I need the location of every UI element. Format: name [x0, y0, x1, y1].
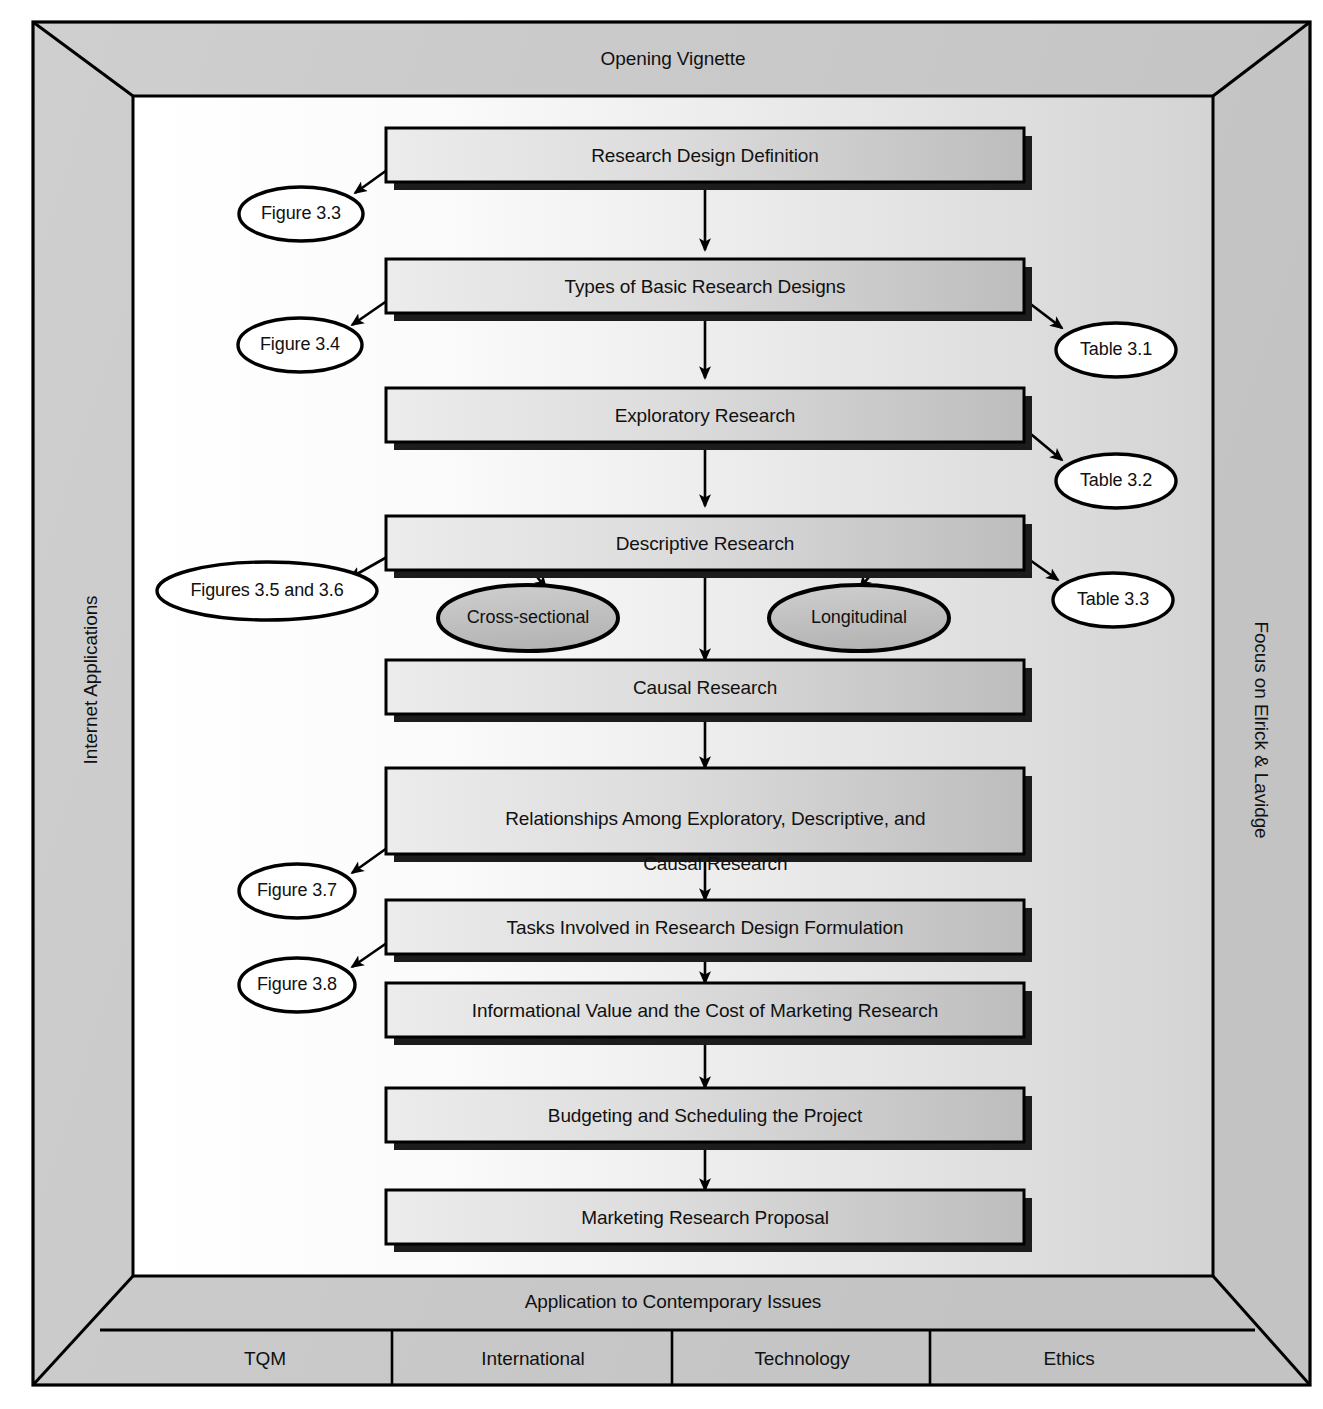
process-box-label-box7: Tasks Involved in Research Design Formul…: [386, 917, 1024, 939]
bottom-cell-ethics[interactable]: Ethics: [934, 1348, 1204, 1370]
process-box-label-box6: Relationships Among Exploratory, Descrip…: [386, 786, 1024, 898]
ellipse-label-ref-figure-3-8: Figure 3.8: [217, 974, 377, 995]
ellipse-label-ref-table-3-2: Table 3.2: [1038, 470, 1194, 491]
frame-bottom-label: Application to Contemporary Issues: [333, 1291, 1013, 1313]
frame-top-label: Opening Vignette: [333, 48, 1013, 70]
process-box-label-box9: Budgeting and Scheduling the Project: [386, 1105, 1024, 1127]
ellipse-label-ref-figure-3-3: Figure 3.3: [221, 203, 381, 224]
ellipse-label-sub-cross-sectional: Cross-sectional: [428, 607, 628, 628]
process-box-label-box8: Informational Value and the Cost of Mark…: [386, 1000, 1024, 1022]
ellipse-label-ref-figures-3-5-3-6: Figures 3.5 and 3.6: [157, 580, 377, 601]
ellipse-label-ref-table-3-1: Table 3.1: [1038, 339, 1194, 360]
diagram-canvas: Opening Vignette Application to Contempo…: [0, 0, 1323, 1409]
bottom-cell-international[interactable]: International: [396, 1348, 670, 1370]
process-box-label-box2: Types of Basic Research Designs: [386, 276, 1024, 298]
process-box-label-box4: Descriptive Research: [386, 533, 1024, 555]
process-box-label-box10: Marketing Research Proposal: [386, 1207, 1024, 1229]
bottom-cell-technology[interactable]: Technology: [676, 1348, 928, 1370]
ellipse-label-ref-table-3-3: Table 3.3: [1035, 589, 1191, 610]
ellipse-label-ref-figure-3-7: Figure 3.7: [217, 880, 377, 901]
process-box-label-box5: Causal Research: [386, 677, 1024, 699]
frame-right-label: Focus on Elrick & Lavidge: [1250, 530, 1272, 930]
ellipse-label-sub-longitudinal: Longitudinal: [759, 607, 959, 628]
frame-left-label: Internet Applications: [80, 500, 102, 860]
process-box-label-box3: Exploratory Research: [386, 405, 1024, 427]
process-box-label-box6-line2: Causal Research: [643, 853, 787, 874]
bottom-cell-tqm[interactable]: TQM: [140, 1348, 390, 1370]
ellipse-label-ref-figure-3-4: Figure 3.4: [220, 334, 380, 355]
process-box-label-box1: Research Design Definition: [386, 145, 1024, 167]
flowchart-graphics: [0, 0, 1323, 1409]
process-box-label-box6-line1: Relationships Among Exploratory, Descrip…: [505, 808, 925, 829]
